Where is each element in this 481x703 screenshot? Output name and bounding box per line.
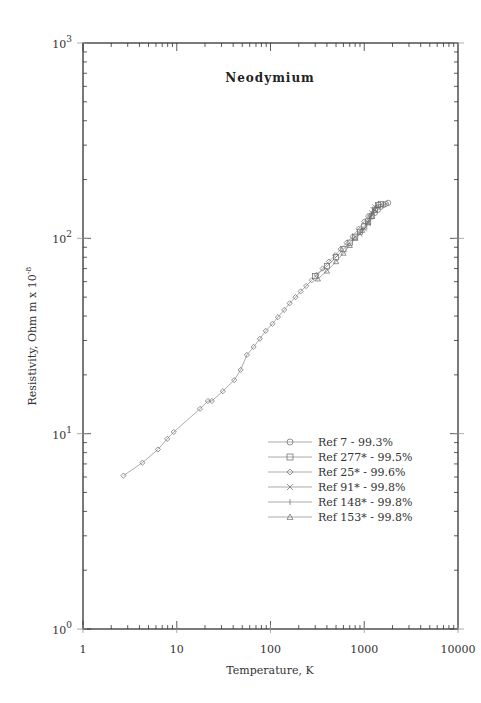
x-tick-labels: 110100100010000 (80, 643, 476, 656)
legend-label: Ref 25* - 99.6% (318, 466, 406, 479)
resistivity-chart: 110100100010000 100101102103 Neodymium T… (0, 0, 481, 703)
plot-border (83, 43, 458, 629)
x-tick-label: 1 (80, 643, 87, 656)
y-tick-label: 100 (52, 620, 72, 637)
legend-item: Ref 148* - 99.8% (268, 496, 413, 509)
x-tick-label: 10000 (441, 643, 476, 656)
legend-label: Ref 148* - 99.8% (318, 496, 413, 509)
x-axis-label: Temperature, K (226, 664, 314, 677)
axis-ticks (77, 43, 464, 633)
y-tick-label: 101 (52, 425, 72, 442)
y-axis-label: Resistivity, Ohm m x 10-8 (24, 267, 39, 406)
x-tick-label: 10 (170, 643, 184, 656)
x-tick-label: 100 (260, 643, 281, 656)
y-axis-label-group: Resistivity, Ohm m x 10-8 (24, 267, 39, 406)
legend: Ref 7 - 99.3%Ref 277* - 99.5%Ref 25* - 9… (268, 436, 413, 524)
y-tick-label: 102 (52, 229, 72, 246)
y-tick-label: 103 (52, 34, 72, 51)
y-tick-labels: 100101102103 (52, 34, 72, 637)
legend-label: Ref 7 - 99.3% (318, 436, 393, 449)
legend-label: Ref 277* - 99.5% (318, 451, 413, 464)
legend-label: Ref 91* - 99.8% (318, 481, 406, 494)
legend-item: Ref 277* - 99.5% (268, 451, 413, 464)
plot-frame (83, 43, 458, 629)
legend-item: Ref 25* - 99.6% (268, 466, 406, 479)
legend-item: Ref 91* - 99.8% (268, 481, 406, 494)
x-tick-label: 1000 (350, 643, 378, 656)
chart-title: Neodymium (225, 71, 315, 85)
legend-item: Ref 153* - 99.8% (268, 511, 413, 524)
y-axis-label-text: Resistivity, Ohm m x 10 (26, 274, 39, 405)
legend-label: Ref 153* - 99.8% (318, 511, 413, 524)
legend-item: Ref 7 - 99.3% (268, 436, 393, 449)
y-axis-label-exponent: -8 (24, 267, 33, 275)
